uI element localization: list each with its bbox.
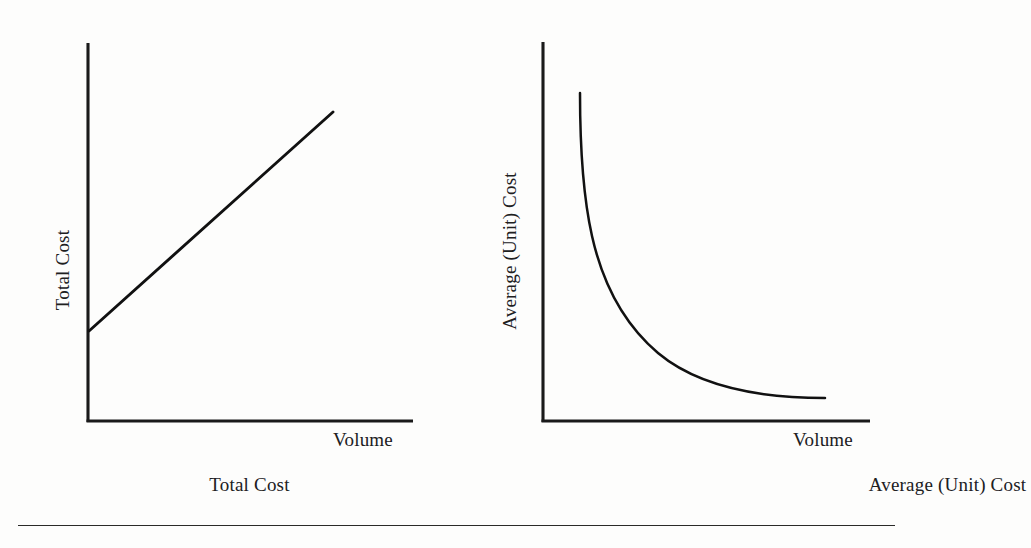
figure-caption-total-cost: Total Cost xyxy=(22,474,477,496)
figure-panel-average-unit-cost: Average (Unit) Cost Volume Average (Unit… xyxy=(455,0,910,548)
average-unit-cost-curve xyxy=(580,93,825,398)
page-divider-rule xyxy=(18,525,895,526)
figure-caption-average-unit-cost: Average (Unit) Cost xyxy=(720,474,1031,496)
total-cost-line xyxy=(89,112,333,331)
y-axis-title-total-cost: Total Cost xyxy=(52,185,74,355)
x-axis-title-volume: Volume xyxy=(333,429,393,451)
x-axis-title-volume: Volume xyxy=(793,429,853,451)
average-unit-cost-plot xyxy=(455,0,910,460)
figure-panel-total-cost: Total Cost Volume Total Cost xyxy=(0,0,455,548)
y-axis-title-average-unit-cost: Average (Unit) Cost xyxy=(499,116,521,386)
